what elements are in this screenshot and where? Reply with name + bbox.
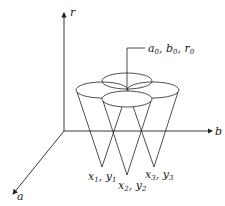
r-axis-label: r	[70, 6, 76, 19]
point-3-label: x3, y3	[145, 168, 174, 182]
a-axis-label: a	[17, 190, 24, 203]
center-point-label: a0, b0, r0	[148, 42, 195, 56]
cones	[76, 73, 179, 175]
cone-1-left-edge	[77, 92, 102, 167]
point-2-label: x2, y2	[118, 179, 147, 193]
cone-rim-front	[102, 91, 152, 107]
point-1-label: x1, y1	[88, 170, 116, 184]
cone-3-right-edge	[154, 92, 178, 167]
cone-2-right-edge	[127, 101, 151, 175]
cone-2-left-edge	[103, 101, 127, 175]
b-axis-label: b	[215, 125, 222, 138]
hough-cones-diagram: r b a a0, b0, r0 x1, y1 x2, y2 x3, y3	[0, 0, 225, 206]
a-axis	[13, 131, 64, 194]
